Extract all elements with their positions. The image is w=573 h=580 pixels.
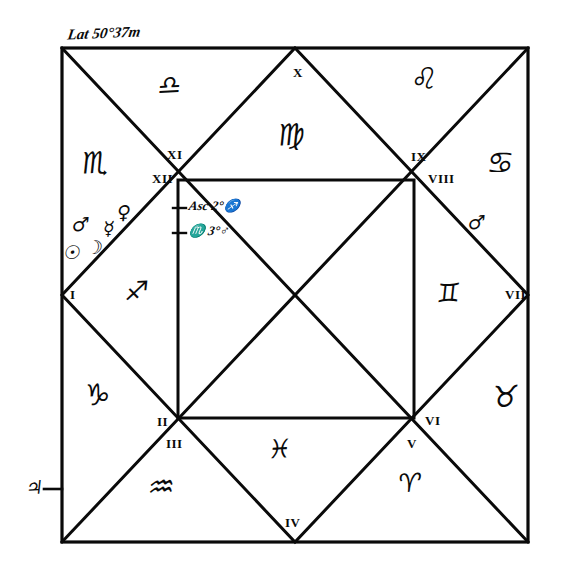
- sign-aquarius-glyph: ♒: [146, 471, 176, 502]
- sign-aries-glyph: ♈: [397, 469, 423, 496]
- house-XI-label: XI: [167, 148, 182, 161]
- sign-leo-glyph: ♌: [409, 63, 439, 94]
- planet-mars-glyph: ♂: [71, 215, 90, 235]
- house-III-label: III: [166, 437, 183, 450]
- house-IX-label: IX: [411, 150, 426, 163]
- sign-capricorn-glyph: ♑: [82, 379, 112, 410]
- astrology-chart: Lat 50°37m ♎ ♌ ♍ ♏ ♋ ♐ ♊ ♑ ♉ ♒ ♓ ♈ ☉ ☽ ☿…: [0, 0, 573, 580]
- planet-mars-right-glyph: ♂: [467, 213, 486, 233]
- house-VI-label: VI: [425, 414, 440, 427]
- jupiter-marker-glyph: ♃: [25, 478, 44, 498]
- chart-lines: [0, 0, 573, 580]
- house-X-label: X: [293, 66, 303, 79]
- house-V-label: V: [407, 437, 417, 450]
- house-IV-label: IV: [285, 516, 300, 529]
- ascendant-annotation: Asc 2°♐: [188, 199, 241, 212]
- planet-sun-glyph: ☉: [63, 243, 82, 263]
- sign-scorpio-glyph: ♏: [80, 147, 110, 178]
- house-XII-label: XII: [152, 172, 173, 185]
- sign-virgo-glyph: ♍: [276, 119, 306, 150]
- planet-moon-glyph: ☽: [85, 238, 104, 258]
- sign-gemini-glyph: ♊: [436, 279, 462, 306]
- sign-cancer-glyph: ♋: [485, 147, 515, 178]
- sign-libra-glyph: ♎: [157, 71, 183, 98]
- planet-venus-glyph: ♀: [116, 203, 132, 223]
- second-annotation: ♏ 3°♂: [188, 224, 231, 237]
- sign-taurus-glyph: ♉: [490, 381, 520, 412]
- house-II-label: II: [157, 415, 168, 428]
- house-VIII-label: VIII: [428, 172, 455, 185]
- sign-pisces-glyph: ♓: [267, 435, 293, 462]
- sign-sagittarius-glyph: ♐: [124, 277, 150, 304]
- house-VII-label: VII: [505, 288, 526, 301]
- house-I-label: I: [70, 288, 76, 301]
- planet-mercury-glyph: ☿: [102, 219, 116, 239]
